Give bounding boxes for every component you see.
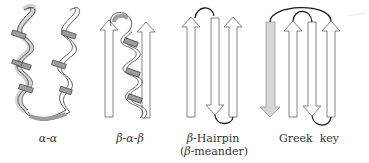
strand-up-arrow-icon [137, 22, 155, 118]
hairpin-text: -Hairpin [193, 132, 239, 145]
beta-hairpin-motif [182, 8, 242, 124]
greek-key-label: Greek key [276, 132, 342, 145]
strand-up-arrow-icon [322, 21, 340, 117]
strand-down-arrow-icon [303, 22, 321, 116]
alpha-alpha-motif [11, 7, 79, 121]
strand-up-arrow-icon [182, 17, 200, 117]
beta-hairpin-label: β-Hairpin (β-meander) [180, 132, 246, 158]
helix-1-icon [11, 7, 35, 110]
greek-key-inner-loop-icon [293, 11, 312, 22]
beta-alpha-beta-label: β-α-β [108, 132, 152, 145]
hairpin-loop-top-icon [195, 8, 214, 18]
greek-key-motif [260, 8, 366, 126]
shaded-strand-down-arrow-icon [260, 22, 280, 117]
meander-text: -meander) [191, 145, 248, 158]
beta-alpha-beta-motif [100, 13, 155, 119]
strand-up-arrow-icon [224, 17, 242, 117]
alpha-alpha-label: α-α [28, 132, 68, 145]
strand-down-arrow-icon [206, 18, 224, 115]
helix-2-icon [51, 8, 79, 112]
greek-key-outer-loop-icon [270, 8, 331, 22]
strand-up-arrow-icon [284, 21, 302, 117]
strand-up-arrow-icon [100, 20, 118, 117]
